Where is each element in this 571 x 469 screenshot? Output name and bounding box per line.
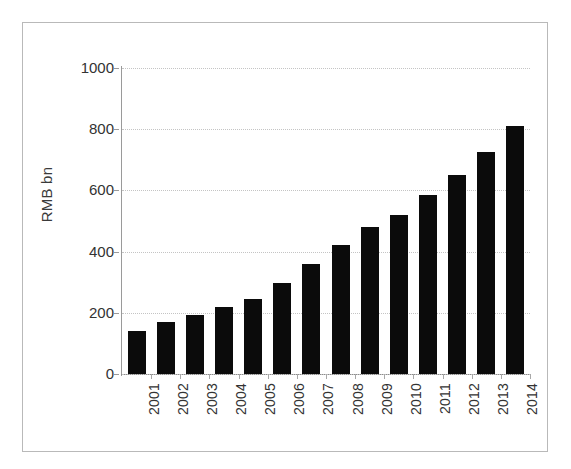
x-tick-label-2004: 2004 bbox=[233, 383, 249, 443]
x-tick-label-2009: 2009 bbox=[379, 383, 395, 443]
x-tick-label-2001: 2001 bbox=[146, 383, 162, 443]
x-tick-minor-2 bbox=[209, 374, 210, 379]
x-tick-minor-11 bbox=[472, 374, 473, 379]
x-tick-minor-9 bbox=[413, 374, 414, 379]
x-tick-minor-1 bbox=[180, 374, 181, 379]
x-tick-label-2010: 2010 bbox=[408, 383, 424, 443]
x-tick-minor-3 bbox=[239, 374, 240, 379]
x-tick-label-2008: 2008 bbox=[350, 383, 366, 443]
x-tick-label-2003: 2003 bbox=[204, 383, 220, 443]
x-tick-label-2013: 2013 bbox=[495, 383, 511, 443]
x-tick-label-2007: 2007 bbox=[320, 383, 336, 443]
x-tick-minor-12 bbox=[501, 374, 502, 379]
x-tick-minor-0 bbox=[151, 374, 152, 379]
x-tick-label-2006: 2006 bbox=[291, 383, 307, 443]
x-tick-label-2011: 2011 bbox=[437, 383, 453, 443]
x-tick-minor-6 bbox=[326, 374, 327, 379]
x-tick-label-2014: 2014 bbox=[524, 383, 540, 443]
x-tick-minor-10 bbox=[443, 374, 444, 379]
x-tick-label-2005: 2005 bbox=[262, 383, 278, 443]
x-tick-label-2012: 2012 bbox=[466, 383, 482, 443]
x-tick-minor-7 bbox=[355, 374, 356, 379]
x-tick-minor-8 bbox=[384, 374, 385, 379]
x-axis-tick-labels: 2001200220032004200520062007200820092010… bbox=[0, 0, 571, 469]
x-tick-label-2002: 2002 bbox=[175, 383, 191, 443]
x-tick-minor-13 bbox=[530, 374, 531, 379]
x-tick-minor-4 bbox=[268, 374, 269, 379]
chart-figure: RMB bn 02004006008001000 200120022003200… bbox=[0, 0, 571, 469]
x-tick-minor-5 bbox=[297, 374, 298, 379]
